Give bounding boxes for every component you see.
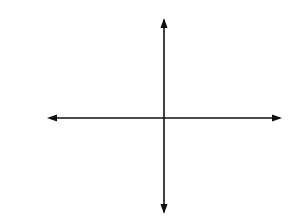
x-axis-right-arrow-icon [272,115,282,122]
y-axis-up-arrow-icon [161,18,168,28]
y-axis-down-arrow-icon [161,204,168,214]
step-function-graph [0,0,289,221]
axes [47,18,282,214]
x-axis-left-arrow-icon [47,115,57,122]
